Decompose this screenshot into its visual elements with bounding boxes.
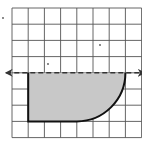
grid-diagram — [0, 0, 142, 143]
shaded-region — [28, 73, 125, 122]
dot-mark — [2, 17, 4, 19]
dot-mark — [99, 44, 101, 46]
dot-mark — [47, 63, 49, 65]
